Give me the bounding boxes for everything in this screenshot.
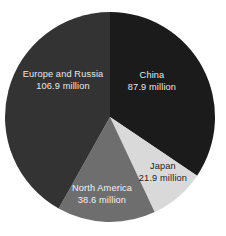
pie-chart-figure: China87.9 millionJapan21.9 millionNorth …	[0, 0, 226, 236]
slice-label-name-europe-and-russia: Europe and Russia	[23, 69, 104, 79]
slice-label-name-japan: Japan	[150, 161, 176, 171]
slice-label-value-europe-and-russia: 106.9 million	[36, 81, 90, 91]
slice-label-value-japan: 21.9 million	[139, 173, 187, 183]
pie-chart-svg: China87.9 millionJapan21.9 millionNorth …	[0, 0, 226, 236]
slice-label-value-north-america: 38.6 million	[78, 195, 126, 205]
slice-label-value-china: 87.9 million	[128, 82, 176, 92]
slice-label-name-north-america: North America	[72, 183, 133, 193]
slice-label-name-china: China	[140, 70, 165, 80]
